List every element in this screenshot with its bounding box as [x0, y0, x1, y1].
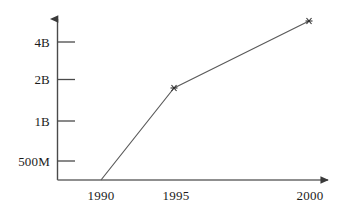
chart-plot-area — [0, 0, 340, 213]
x-axis-tick-label-1990: 1990 — [88, 189, 115, 202]
y-axis-tick-label-2b: 2B — [6, 73, 50, 86]
y-axis-tick-label-4b: 4B — [6, 36, 50, 49]
data-line-series-value — [101, 21, 309, 180]
y-axis-tick-label-1b: 1B — [6, 115, 50, 128]
x-axis-tick-label-2000: 2000 — [297, 189, 324, 202]
data-point-marker-1995 — [171, 85, 178, 91]
y-axis-ticks — [58, 42, 76, 161]
y-axis-tick-label-500m: 500M — [1, 155, 50, 168]
x-axis-tick-label-1995: 1995 — [163, 189, 190, 202]
chart-figure: 4B 2B 1B 500M 1990 1995 2000 — [0, 0, 340, 213]
data-point-marker-2000 — [306, 18, 313, 24]
